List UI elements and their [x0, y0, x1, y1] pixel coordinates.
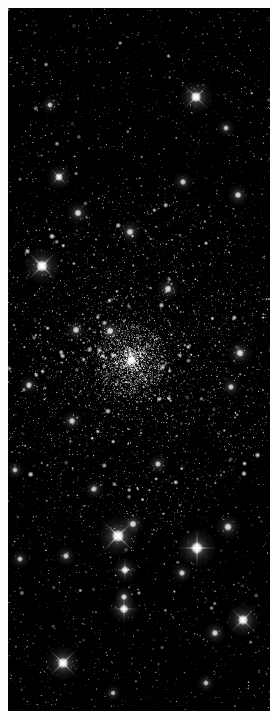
bright-star-diffraction-spike-layer	[8, 8, 270, 711]
plate-bottom-margin	[0, 711, 270, 724]
astronomical-plate	[8, 8, 270, 711]
image-canvas	[0, 0, 270, 724]
